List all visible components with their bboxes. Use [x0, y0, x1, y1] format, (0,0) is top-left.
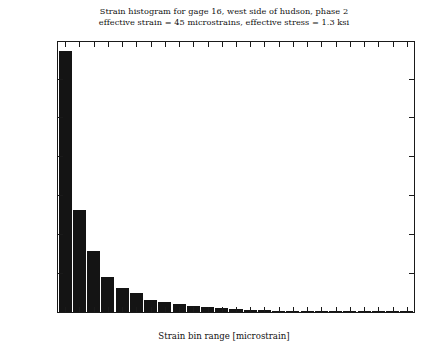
- x-axis-tick: [79, 42, 80, 47]
- x-axis-tick: [321, 42, 322, 47]
- x-axis-tick: [250, 307, 251, 312]
- x-axis-tick: [350, 307, 351, 312]
- x-axis-tick: [165, 307, 166, 312]
- x-axis-tick: [179, 307, 180, 312]
- y-axis-tick: [58, 234, 63, 235]
- x-axis-tick: [279, 307, 280, 312]
- y-axis-tick: [409, 79, 414, 80]
- x-axis-tick: [94, 42, 95, 47]
- x-axis-tick: [350, 42, 351, 47]
- x-axis-tick: [136, 307, 137, 312]
- y-axis-tick: [409, 195, 414, 196]
- x-axis-tick: [122, 307, 123, 312]
- histogram-bar: [87, 251, 100, 312]
- x-axis-tick: [321, 307, 322, 312]
- x-axis-tick: [236, 307, 237, 312]
- y-axis-tick: [58, 195, 63, 196]
- histogram-bar: [73, 210, 86, 312]
- y-axis-tick: [409, 156, 414, 157]
- y-axis-tick: [409, 312, 414, 313]
- x-axis-tick: [293, 42, 294, 47]
- x-axis-tick: [250, 42, 251, 47]
- chart-title: Strain histogram for gage 16, west side …: [0, 6, 448, 28]
- x-axis-tick: [165, 42, 166, 47]
- x-axis-tick: [65, 42, 66, 47]
- y-axis-tick: [409, 273, 414, 274]
- x-axis-tick: [364, 42, 365, 47]
- y-axis-tick: [58, 79, 63, 80]
- x-axis-label: Strain bin range [microstrain]: [0, 331, 448, 341]
- x-axis-tick: [393, 42, 394, 47]
- x-axis-tick: [293, 307, 294, 312]
- x-axis-tick: [279, 42, 280, 47]
- x-axis-tick: [393, 307, 394, 312]
- plot-area: 0100020003000400050006000202836445260687…: [57, 41, 415, 313]
- x-axis-tick: [179, 42, 180, 47]
- y-axis-tick: [58, 117, 63, 118]
- x-axis-tick: [151, 42, 152, 47]
- x-axis-tick: [378, 307, 379, 312]
- x-axis-tick: [307, 307, 308, 312]
- x-axis-tick: [108, 42, 109, 47]
- y-axis-tick: [409, 117, 414, 118]
- x-axis-tick: [378, 42, 379, 47]
- x-axis-tick: [407, 42, 408, 47]
- y-axis-label-wrap: Number of cycles within 48 hours: [23, 90, 37, 280]
- x-axis-tick: [94, 307, 95, 312]
- bars-layer: [58, 42, 414, 312]
- x-axis-tick: [151, 307, 152, 312]
- x-axis-tick: [65, 307, 66, 312]
- y-axis-tick: [58, 273, 63, 274]
- x-axis-tick: [208, 42, 209, 47]
- x-axis-tick: [122, 42, 123, 47]
- x-axis-tick: [222, 307, 223, 312]
- x-axis-tick: [108, 307, 109, 312]
- y-axis-tick: [58, 312, 63, 313]
- x-axis-tick: [364, 307, 365, 312]
- x-axis-tick: [407, 307, 408, 312]
- x-axis-tick: [236, 42, 237, 47]
- x-axis-tick: [193, 42, 194, 47]
- histogram-figure: Strain histogram for gage 16, west side …: [0, 0, 448, 354]
- y-axis-tick: [58, 156, 63, 157]
- x-axis-tick: [336, 307, 337, 312]
- y-axis-tick: [409, 234, 414, 235]
- x-axis-tick: [193, 307, 194, 312]
- x-axis-tick: [222, 42, 223, 47]
- x-axis-tick: [79, 307, 80, 312]
- x-axis-tick: [208, 307, 209, 312]
- chart-title-line-1: Strain histogram for gage 16, west side …: [0, 6, 448, 17]
- x-axis-tick: [264, 307, 265, 312]
- x-axis-tick: [136, 42, 137, 47]
- x-axis-tick: [264, 42, 265, 47]
- chart-title-line-2: effective strain = 45 microstrains, effe…: [0, 17, 448, 28]
- x-axis-tick: [336, 42, 337, 47]
- x-axis-tick: [307, 42, 308, 47]
